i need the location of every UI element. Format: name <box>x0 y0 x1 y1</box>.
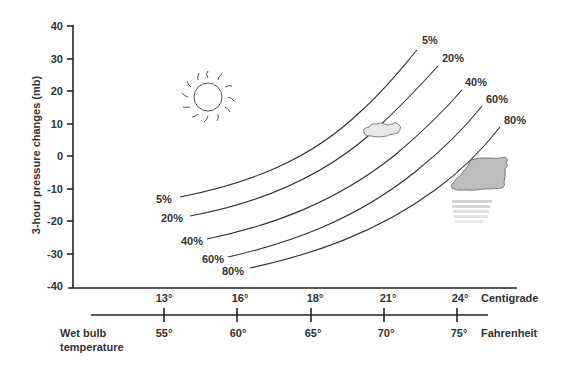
y-ticks <box>67 26 73 254</box>
centigrade-tick-labels: 13° 16° 18° 21° 24° <box>156 292 469 304</box>
fahrenheit-label: Fahrenheit <box>481 327 538 339</box>
svg-text:24°: 24° <box>452 292 469 304</box>
y-tick-label: -40 <box>47 280 63 292</box>
y-tick-label: -10 <box>47 183 63 195</box>
humidity-curves <box>180 50 500 268</box>
svg-text:5%: 5% <box>422 34 438 46</box>
curve-20 <box>190 66 438 216</box>
humidity-chart: 40 30 20 10 0 -10 -20 -30 -40 3-hour pre… <box>0 0 561 366</box>
y-tick-label: 40 <box>51 20 63 32</box>
y-tick-label: -30 <box>47 248 63 260</box>
svg-text:18°: 18° <box>307 292 324 304</box>
svg-text:13°: 13° <box>156 292 173 304</box>
svg-text:40%: 40% <box>181 235 203 247</box>
svg-text:75°: 75° <box>451 327 468 339</box>
svg-text:55°: 55° <box>156 327 173 339</box>
svg-text:80%: 80% <box>504 114 526 126</box>
svg-text:65°: 65° <box>305 327 322 339</box>
svg-text:60%: 60% <box>486 93 508 105</box>
svg-text:60°: 60° <box>230 327 247 339</box>
svg-text:16°: 16° <box>232 292 249 304</box>
y-tick-label: -20 <box>47 215 63 227</box>
y-axis-label: 3-hour pressure changes (mb) <box>30 76 42 235</box>
y-tick-labels: 40 30 20 10 0 -10 -20 -30 -40 <box>47 20 63 292</box>
curve-80 <box>250 127 500 268</box>
curve-60 <box>228 106 482 257</box>
curve-end-labels: 5% 20% 40% 60% 80% <box>422 34 526 126</box>
small-cloud-icon <box>364 123 401 138</box>
y-tick-label: 10 <box>51 118 63 130</box>
svg-text:40%: 40% <box>465 76 487 88</box>
svg-text:20%: 20% <box>161 212 183 224</box>
svg-text:5%: 5% <box>156 193 172 205</box>
svg-text:70°: 70° <box>378 327 395 339</box>
svg-text:20%: 20% <box>442 52 464 64</box>
rain-cloud-icon <box>451 157 507 223</box>
fahrenheit-tick-labels: 55° 60° 65° 70° 75° <box>156 327 468 339</box>
sun-icon <box>182 71 234 122</box>
centigrade-label: Centigrade <box>481 292 538 304</box>
y-tick-label: 30 <box>51 53 63 65</box>
svg-text:21°: 21° <box>380 292 397 304</box>
curve-start-labels: 5% 20% 40% 60% 80% <box>156 193 244 277</box>
y-tick-label: 20 <box>51 85 63 97</box>
svg-text:80%: 80% <box>222 265 244 277</box>
x-axis-label-line1: Wet bulb <box>60 327 107 339</box>
svg-text:60%: 60% <box>202 253 224 265</box>
x-axis-label-line2: temperature <box>60 341 124 353</box>
y-tick-label: 0 <box>57 150 63 162</box>
